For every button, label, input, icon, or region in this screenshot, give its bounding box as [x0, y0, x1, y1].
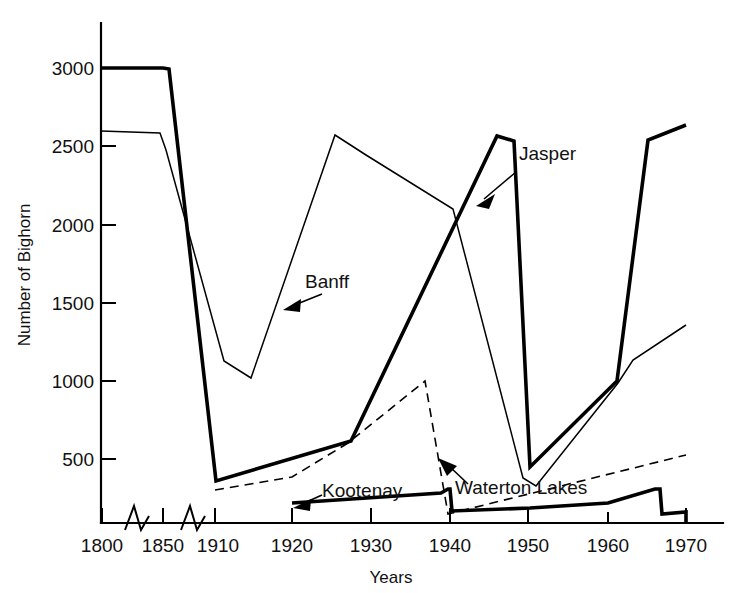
y-tick-label-2000: 2000 — [52, 215, 94, 236]
x-tick-label-1800: 1800 — [81, 535, 123, 556]
annotation-label-jasper: Jasper — [519, 143, 577, 164]
annotation-jasper: Jasper — [476, 143, 577, 209]
x-tick-label-1940: 1940 — [429, 535, 471, 556]
y-tick-label-2500: 2500 — [52, 136, 94, 157]
axis-break-icon-1 — [125, 506, 149, 530]
y-tick-marks — [101, 68, 116, 459]
axis-break-icon-2 — [181, 506, 205, 530]
annotation-arrow-jasper — [484, 172, 516, 199]
annotation-arrowhead-banff — [283, 299, 301, 312]
x-tick-label-1910: 1910 — [197, 535, 239, 556]
y-tick-label-1500: 1500 — [52, 293, 94, 314]
x-tick-label-1920: 1920 — [271, 535, 313, 556]
x-tick-label-1930: 1930 — [350, 535, 392, 556]
y-tick-label-1000: 1000 — [52, 371, 94, 392]
annotation-arrowhead-jasper — [476, 194, 495, 209]
y-axis-title: Number of Bighorn — [15, 204, 34, 347]
y-tick-label-3000: 3000 — [52, 58, 94, 79]
x-tick-labels: 1800 1850 1910 1920 1930 1940 1950 1960 … — [81, 535, 707, 556]
x-tick-label-1850: 1850 — [142, 535, 184, 556]
annotation-kootenay: Kootenay — [293, 480, 403, 511]
y-tick-label-500: 500 — [62, 449, 94, 470]
bighorn-population-chart: 3000 2500 2000 1500 1000 500 Number of B… — [0, 0, 741, 593]
annotation-banff: Banff — [283, 271, 350, 312]
y-tick-labels: 3000 2500 2000 1500 1000 500 — [52, 58, 94, 470]
annotation-label-kootenay: Kootenay — [322, 480, 403, 501]
series-line-banff — [101, 131, 686, 486]
x-axis-title: Years — [370, 568, 413, 587]
annotation-waterton-lakes: Waterton Lakes — [438, 458, 587, 498]
annotation-label-waterton-lakes: Waterton Lakes — [455, 477, 587, 498]
annotation-label-banff: Banff — [305, 271, 350, 292]
chart-svg: 3000 2500 2000 1500 1000 500 Number of B… — [0, 0, 741, 593]
series-line-jasper — [101, 68, 686, 481]
x-tick-label-1970: 1970 — [665, 535, 707, 556]
x-tick-label-1960: 1960 — [587, 535, 629, 556]
x-tick-label-1950: 1950 — [507, 535, 549, 556]
x-axis-break-marks — [125, 506, 205, 530]
x-tick-marks — [102, 508, 686, 523]
